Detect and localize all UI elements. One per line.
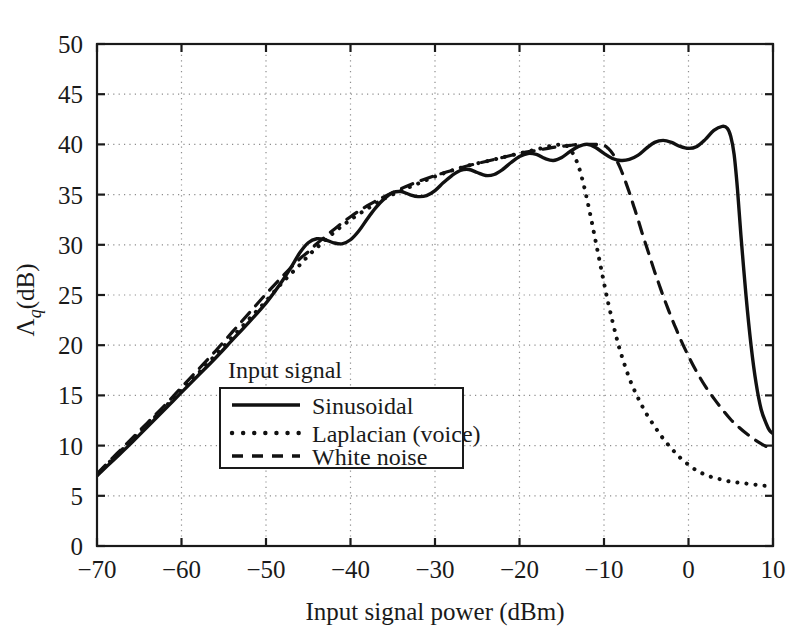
x-tick-label: −50 [246,556,285,583]
chart-canvas: −70−60−50−40−30−20−10010 051015202530354… [0,0,812,636]
y-tick-label: 35 [58,182,83,209]
y-tick-label: 15 [58,382,83,409]
y-tick-label: 20 [58,332,83,359]
svg-text:Λq(dB): Λq(dB) [12,264,45,337]
y-axis-tick-labels: 05101520253035404550 [58,31,83,560]
x-axis-tick-labels: −70−60−50−40−30−20−10010 [77,556,785,583]
y-tick-label: 25 [58,282,83,309]
y-axis-unit: (dB) [12,264,40,310]
y-tick-label: 5 [71,483,84,510]
y-axis-title: Λq(dB) [12,264,45,337]
legend-label[interactable]: Sinusoidal [312,393,414,419]
y-tick-label: 0 [71,533,84,560]
gridlines [97,44,773,546]
y-axis-subscript: q [25,309,45,318]
y-tick-label: 40 [58,131,83,158]
x-tick-label: 10 [761,556,786,583]
x-tick-label: −30 [415,556,454,583]
x-axis-title: Input signal power (dBm) [306,598,565,626]
y-tick-label: 45 [58,81,83,108]
y-tick-label: 30 [58,232,83,259]
x-tick-label: −60 [162,556,201,583]
x-tick-label: −40 [331,556,370,583]
figure-container: −70−60−50−40−30−20−10010 051015202530354… [0,0,812,636]
legend-label[interactable]: White noise [312,444,427,470]
y-axis-symbol: Λ [12,318,39,336]
y-tick-label: 10 [58,433,83,460]
x-tick-label: −10 [584,556,623,583]
legend-title: Input signal [228,357,342,383]
x-tick-label: −70 [77,556,116,583]
y-tick-label: 50 [58,31,83,58]
x-tick-label: −20 [500,556,539,583]
x-tick-label: 0 [682,556,695,583]
